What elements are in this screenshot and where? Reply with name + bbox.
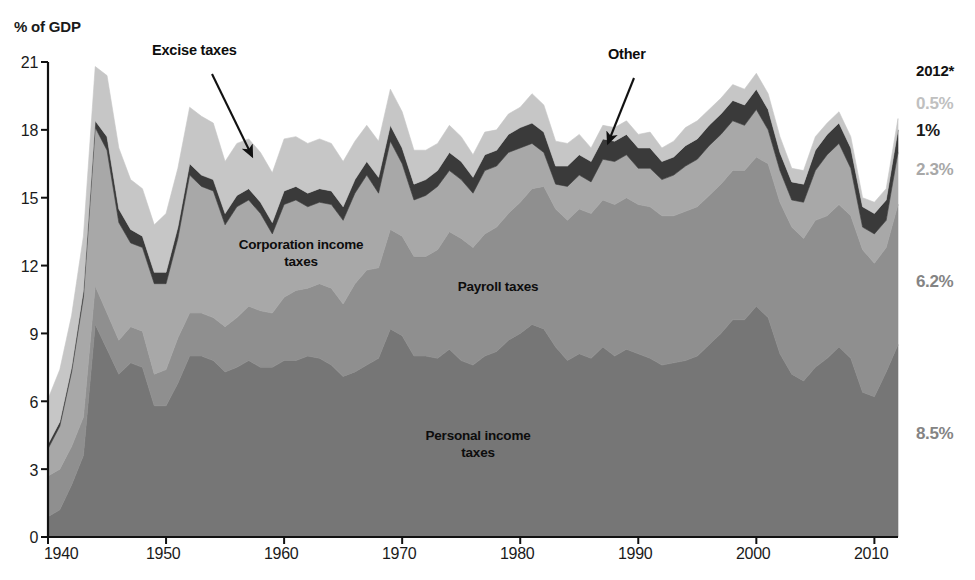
area-series-group — [48, 67, 898, 537]
end-label-payroll: 6.2% — [916, 272, 953, 292]
series-label-personal: Personal income taxes — [378, 427, 578, 462]
series-label-corporate: Corporation income taxes — [196, 236, 406, 271]
end-label-excise: 0.5% — [916, 94, 953, 114]
callout-label-other: Other — [608, 46, 646, 62]
end-label-year: 2012* — [916, 62, 954, 79]
chart-figure: % of GDP 21 18 15 12 9 6 3 0 1940 1950 1… — [0, 0, 975, 580]
end-label-corporate: 2.3% — [916, 160, 953, 180]
end-label-personal: 8.5% — [916, 424, 953, 444]
series-label-payroll: Payroll taxes — [418, 278, 578, 295]
end-label-other: 1% — [916, 121, 940, 141]
callout-label-excise: Excise taxes — [152, 42, 237, 58]
